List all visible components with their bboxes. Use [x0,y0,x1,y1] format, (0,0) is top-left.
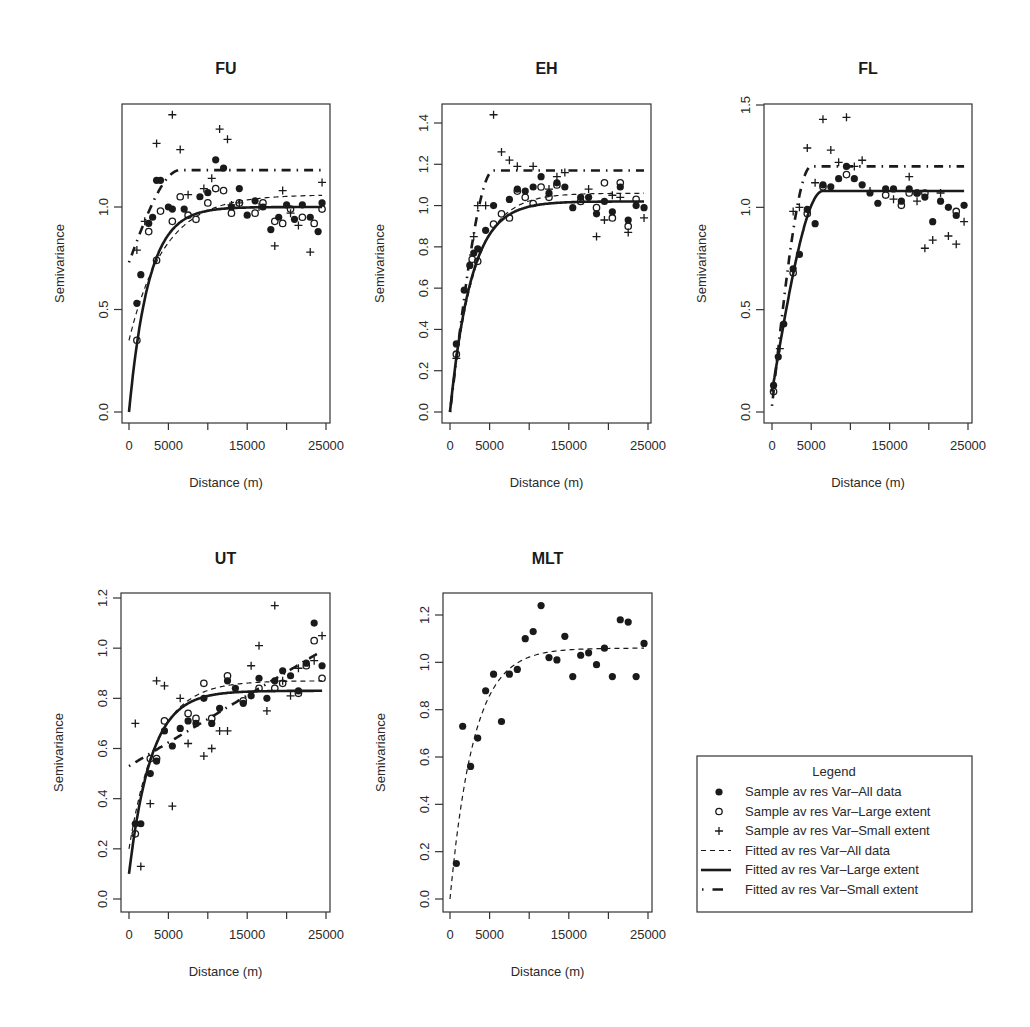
sample-points [133,111,326,344]
y-tick-label: 0.8 [417,701,432,719]
plus-marker [137,862,145,870]
filled-circle-marker [780,320,787,327]
panel-ut: UT050001500025000Distance (m)0.00.20.40.… [51,550,344,979]
plus-marker [146,800,154,808]
x-tick-label: 0 [446,927,453,942]
fitted-curves [450,171,644,413]
plus-marker [287,692,295,700]
y-tick-label: 0.0 [95,890,110,908]
plus-marker [905,173,913,181]
open-circle-marker [279,220,285,226]
open-circle-marker [490,221,496,227]
plus-marker [482,202,490,210]
y-axis-label: Semivariance [372,224,387,303]
y-tick-label: 0.6 [95,739,110,757]
filled-circle-marker [185,717,192,724]
filled-circle-marker [147,770,154,777]
filled-circle-marker [220,164,227,171]
x-axis: 050001500025000 [125,912,344,942]
filled-circle-marker [775,353,782,360]
filled-circle-marker [537,173,544,180]
plus-marker [271,602,279,610]
filled-circle-marker [137,820,144,827]
plus-marker [593,233,601,241]
fitted-line-solid [129,691,322,874]
filled-circle-marker [137,271,144,278]
filled-circle-marker [506,196,513,203]
plus-marker [600,216,608,224]
y-tick-label: 0.0 [417,890,432,908]
filled-circle-marker [569,204,576,211]
fitted-line-dashed [450,193,644,412]
filled-circle-marker [196,193,203,200]
plus-marker [850,162,858,170]
open-circle-marker [593,204,599,210]
filled-circle-marker [161,727,168,734]
y-tick-label: 1.2 [417,606,432,624]
y-tick-label: 0.4 [95,790,110,808]
x-tick-label: 5000 [154,438,183,453]
legend-item-label: Fitted av res Var–Large extent [745,862,919,877]
fitted-line-dotdash [450,171,644,413]
plus-marker [255,642,263,650]
x-tick-label: 5000 [475,927,504,942]
y-axis-label: Semivariance [694,224,709,303]
filled-circle-marker [291,216,298,223]
filled-circle-marker [960,202,967,209]
filled-circle-marker [169,742,176,749]
x-axis-label: Distance (m) [511,964,585,979]
open-circle-marker [205,200,211,206]
x-tick-label: 5000 [154,927,183,942]
filled-circle-marker [553,656,560,663]
fitted-line-dashed [450,648,644,899]
filled-circle-marker [181,205,188,212]
legend-item: Sample av res Var–Large extent [716,804,931,819]
y-tick-label: 1.2 [416,155,431,173]
filled-circle-marker [200,695,207,702]
y-tick-label: 0.8 [95,689,110,707]
x-tick-label: 0 [446,438,453,453]
fitted-curves [450,648,644,899]
filled-circle-marker [482,687,489,694]
open-circle-marker [185,710,191,716]
filled-circle-marker [453,340,460,347]
x-tick-label: 25000 [630,438,666,453]
plus-marker [616,193,624,201]
filled-circle-marker [248,692,255,699]
plus-marker [913,197,921,205]
filled-circle-marker [169,205,176,212]
plot-frame [442,104,651,423]
plus-marker [921,244,929,252]
legend-item-label: Sample av res Var–Large extent [745,804,931,819]
plus-marker [497,148,505,156]
plus-marker [608,191,616,199]
x-tick-label: 25000 [308,927,344,942]
x-axis-label: Distance (m) [189,475,263,490]
filled-circle-marker [271,677,278,684]
filled-circle-marker [453,860,460,867]
filled-circle-marker [474,245,481,252]
filled-circle-marker [593,661,600,668]
plus-marker [835,158,843,166]
open-circle-marker [252,210,258,216]
filled-circle-marker [506,671,513,678]
x-axis-label: Distance (m) [189,964,263,979]
plus-marker [153,677,161,685]
filled-circle-marker [279,667,286,674]
plus-marker [131,719,139,727]
filled-circle-marker [577,652,584,659]
y-axis-label: Semivariance [51,713,66,792]
filled-circle-marker [283,201,290,208]
y-tick-label: 0.2 [95,840,110,858]
filled-circle-marker [251,197,258,204]
plus-marker [803,144,811,152]
filled-circle-marker [299,201,306,208]
filled-circle-marker [318,662,325,669]
y-tick-label: 1.0 [417,653,432,671]
open-circle-marker [272,218,278,224]
filled-circle-marker [275,214,282,221]
filled-circle-marker [625,619,632,626]
x-axis: 050001500025000 [125,423,344,453]
filled-circle-marker [945,204,952,211]
plus-marker [160,682,168,690]
